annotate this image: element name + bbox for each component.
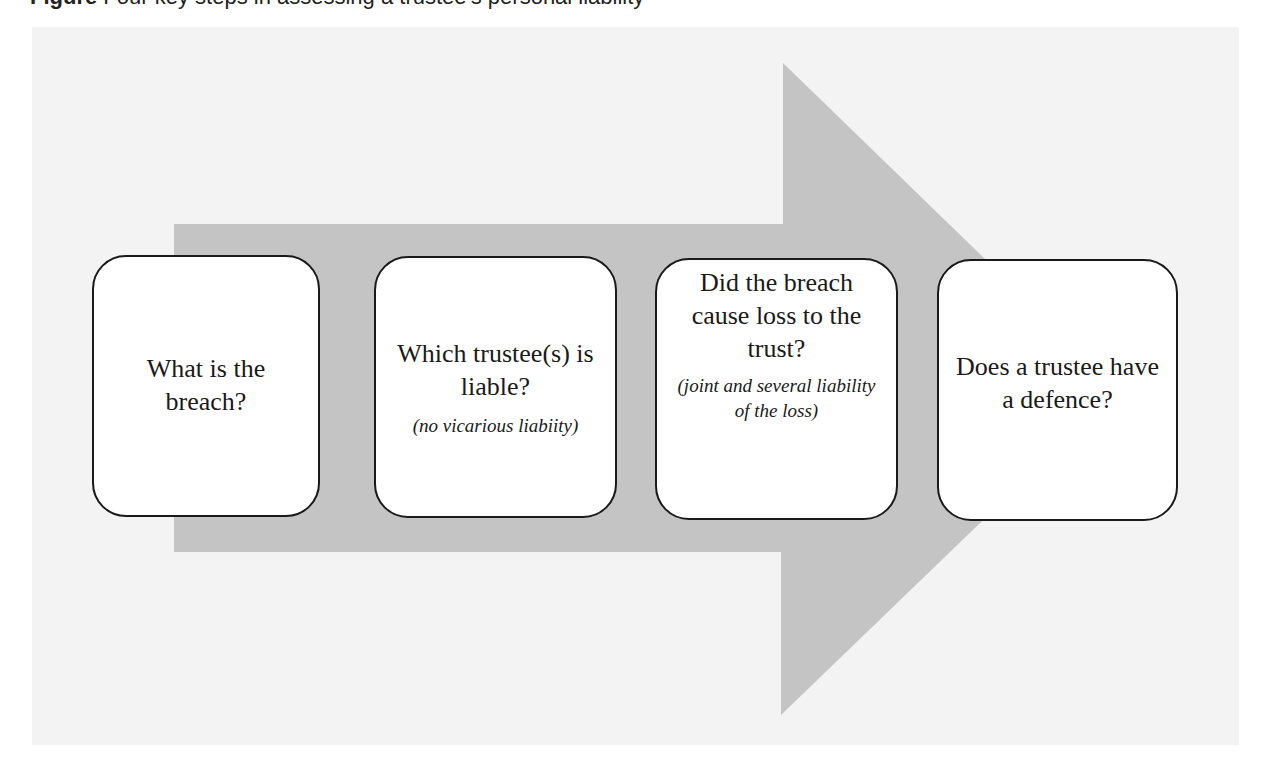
step-note: (joint and several liability of the loss… xyxy=(669,373,884,423)
step-note: (no vicarious liabiity) xyxy=(413,413,579,438)
step-title: Did the breach cause loss to the trust? xyxy=(669,266,884,365)
step-box-breach: What is the breach? xyxy=(92,255,320,517)
step-title: Does a trustee have a defence? xyxy=(951,350,1164,416)
step-title: What is the breach? xyxy=(106,352,306,418)
step-box-defence: Does a trustee have a defence? xyxy=(937,259,1178,521)
step-box-causation: Did the breach cause loss to the trust? … xyxy=(655,258,898,520)
step-box-liable-trustee: Which trustee(s) is liable? (no vicariou… xyxy=(374,256,617,518)
step-title: Which trustee(s) is liable? xyxy=(388,337,603,403)
